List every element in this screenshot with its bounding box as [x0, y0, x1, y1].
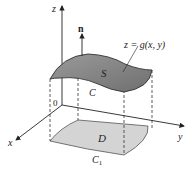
boundary-c-label: C: [89, 87, 96, 98]
normal-label: n: [78, 23, 84, 34]
surface-label: S: [101, 67, 107, 79]
region-d-label: D: [97, 132, 106, 144]
y-axis-label: y: [177, 131, 183, 142]
surface-equation: z = g(x, y): [123, 39, 166, 51]
boundary-c1-label: C1: [92, 154, 103, 167]
z-axis-label: z: [51, 3, 56, 14]
surface-projection-diagram: z x y 0 n S z = g(x, y) C D C1: [0, 0, 192, 177]
x-axis-label: x: [7, 137, 13, 148]
diagram-canvas: z x y 0 n S z = g(x, y) C D C1: [0, 0, 192, 177]
origin-label: 0: [53, 98, 58, 108]
